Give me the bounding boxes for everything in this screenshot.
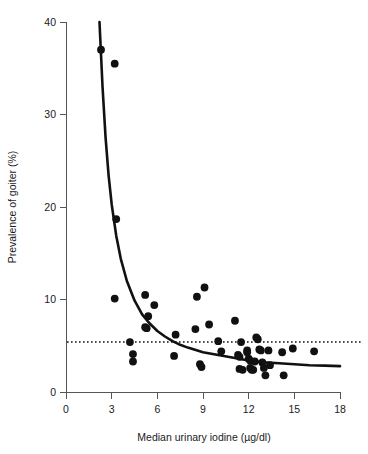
chart-container: 0102030400369121518 Median urinary iodin…: [0, 0, 368, 454]
fit-curve-path: [99, 22, 340, 366]
data-point-marker: [144, 312, 152, 320]
y-tick-label: 20: [44, 201, 56, 213]
y-tick-label: 10: [44, 293, 56, 305]
x-axis-title: Median urinary iodine (µg/dl): [137, 431, 270, 443]
data-point-marker: [97, 46, 105, 54]
data-point-marker: [201, 284, 209, 292]
y-axis-title: Prevalence of goiter (%): [6, 151, 18, 264]
data-point-marker: [143, 324, 151, 332]
scatter-plot: 0102030400369121518 Median urinary iodin…: [0, 0, 368, 454]
data-point-marker: [266, 361, 274, 369]
data-point-marker: [278, 348, 286, 356]
data-point-marker: [289, 345, 297, 353]
x-tick-label: 3: [109, 403, 115, 415]
data-point-marker: [236, 353, 244, 361]
data-point-marker: [126, 338, 134, 346]
data-point-marker: [111, 60, 119, 68]
data-point-marker: [193, 293, 201, 301]
x-tick-label: 9: [200, 403, 206, 415]
data-point-marker: [191, 325, 199, 333]
data-point-marker: [243, 348, 251, 356]
data-point-marker: [310, 347, 318, 355]
data-point-marker: [251, 358, 259, 366]
data-point-marker: [237, 338, 245, 346]
data-point-marker: [262, 371, 270, 379]
data-point-marker: [214, 337, 222, 345]
data-point-marker: [205, 321, 213, 329]
x-tick-label: 6: [154, 403, 160, 415]
data-point-marker: [254, 335, 262, 343]
x-tick-label: 18: [334, 403, 346, 415]
data-point-marker: [265, 346, 273, 354]
data-point-marker: [198, 363, 206, 371]
data-point-marker: [172, 331, 180, 339]
x-tick-label: 15: [288, 403, 300, 415]
data-point-marker: [249, 366, 257, 374]
data-point-marker: [280, 371, 288, 379]
data-point-marker: [231, 317, 239, 325]
data-point-marker: [257, 346, 265, 354]
data-point-marker: [217, 347, 225, 355]
data-point-marker: [141, 291, 149, 299]
data-point-marker: [129, 358, 137, 366]
data-point-marker: [111, 295, 119, 303]
data-point-marker: [112, 215, 120, 223]
axis-tick-labels: 0102030400369121518: [44, 16, 346, 415]
data-point-marker: [170, 352, 178, 360]
y-tick-label: 0: [50, 386, 56, 398]
data-point-marker: [150, 301, 158, 309]
axes: [66, 22, 340, 392]
fitted-curve: [99, 22, 340, 366]
data-points: [97, 46, 318, 379]
data-point-marker: [129, 350, 137, 358]
y-tick-label: 30: [44, 108, 56, 120]
x-tick-label: 12: [243, 403, 255, 415]
x-tick-label: 0: [63, 403, 69, 415]
y-tick-label: 40: [44, 16, 56, 28]
data-point-marker: [239, 366, 247, 374]
